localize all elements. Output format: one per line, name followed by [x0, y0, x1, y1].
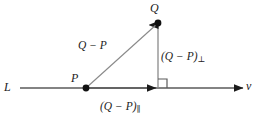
right-angle-marker	[158, 79, 167, 88]
parallel-component-label: (Q − P)∥	[100, 101, 141, 115]
point-Q-label: Q	[150, 2, 159, 14]
parallel-subscript-icon: ∥	[137, 105, 141, 114]
line-L-label: L	[4, 81, 11, 93]
direction-vector-label: v	[246, 80, 251, 92]
perpendicular-component-base: (Q − P)	[161, 50, 198, 62]
perpendicular-subscript-icon: ⊥	[198, 55, 206, 64]
perpendicular-component-label: (Q − P)⊥	[161, 51, 206, 65]
diagonal-vector-label: Q − P	[78, 40, 107, 52]
diagonal-vector-QP	[86, 24, 157, 88]
point-P-dot	[83, 85, 90, 92]
parallel-component-base: (Q − P)	[100, 100, 137, 112]
point-P-label: P	[71, 72, 78, 84]
vector-decomposition-figure: L P Q v Q − P (Q − P)⊥ (Q − P)∥	[0, 0, 259, 123]
point-Q-dot	[155, 20, 162, 27]
